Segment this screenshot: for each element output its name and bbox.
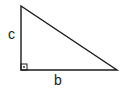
triangle-shape bbox=[21, 6, 117, 70]
side-label-c: c bbox=[8, 27, 15, 41]
right-triangle-diagram: c b bbox=[0, 0, 124, 91]
right-angle-dot bbox=[23, 66, 25, 68]
side-label-b: b bbox=[54, 73, 62, 87]
triangle-svg bbox=[0, 0, 124, 91]
